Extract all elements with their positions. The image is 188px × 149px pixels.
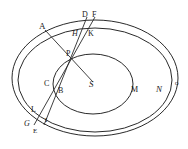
label-N: N	[155, 84, 163, 94]
line-D-E	[44, 17, 87, 125]
label-O: O	[175, 81, 179, 86]
outer-ellipse-O	[12, 20, 178, 136]
label-G: G	[24, 119, 30, 128]
label-F: F	[92, 10, 97, 19]
label-D: D	[82, 10, 88, 19]
label-A: A	[39, 21, 46, 31]
label-L: L	[31, 105, 36, 114]
label-C: C	[44, 79, 49, 88]
orbit-diagram: A D F H K P C B S M N O L G I E	[0, 0, 188, 149]
label-E: E	[33, 127, 37, 135]
middle-ellipse-N	[18, 28, 172, 132]
label-K: K	[88, 29, 94, 38]
label-P: P	[66, 49, 71, 58]
label-S: S	[89, 79, 94, 89]
label-H: H	[71, 29, 79, 38]
label-B: B	[58, 86, 63, 95]
label-M: M	[131, 85, 138, 94]
